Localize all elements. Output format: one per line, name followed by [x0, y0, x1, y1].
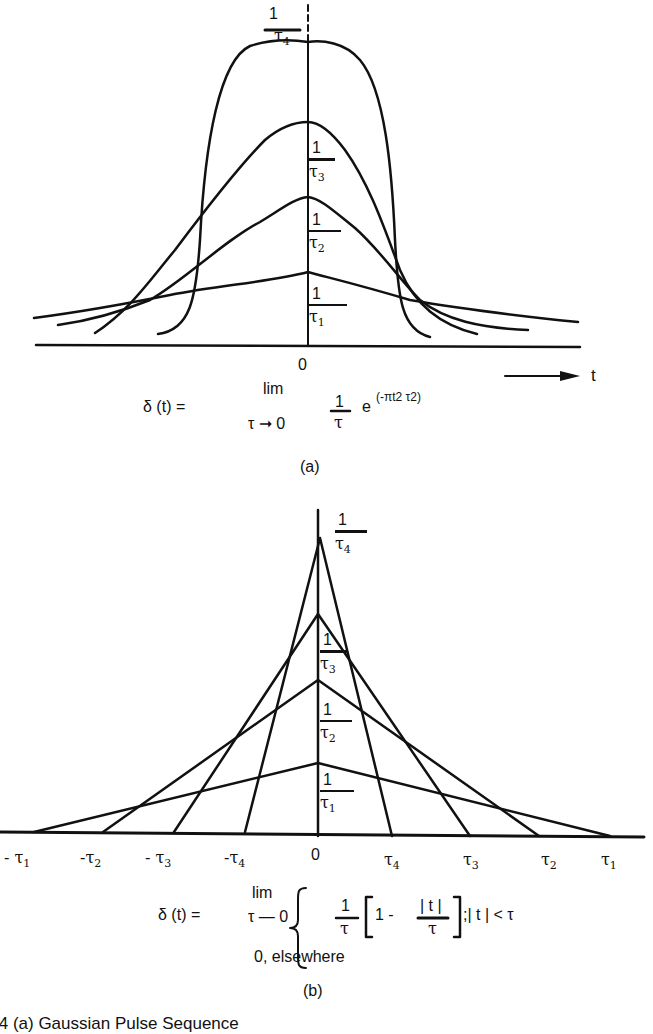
numerator: 1	[320, 632, 332, 648]
subscript: 4	[344, 543, 351, 556]
t-axis-label: t	[591, 366, 596, 386]
figure-caption: .4 (a) Gaussian Pulse Sequence	[0, 1014, 239, 1034]
panel-label-b: (b)	[303, 982, 323, 1000]
numerator: 1	[320, 772, 332, 788]
tick-tau1: τ1	[601, 850, 617, 872]
subscript: 3	[318, 171, 325, 184]
t-axis-b	[0, 832, 644, 837]
fraction-bar	[320, 790, 354, 792]
condition: ;| t | < τ	[463, 906, 514, 924]
gaussian-panel	[34, 5, 580, 376]
denominator: τ	[335, 534, 344, 553]
fraction-numerator: 1	[335, 393, 344, 411]
tick-neg-tau3: - τ3	[145, 848, 171, 870]
fraction-bar	[320, 720, 352, 722]
limit-subscript: τ ➞ 0	[248, 414, 285, 433]
denominator: τ	[309, 162, 318, 181]
left-bracket	[366, 897, 372, 937]
fraction-numerator: 1	[341, 897, 350, 915]
fraction-bar	[320, 650, 348, 653]
peak-label-tau1-a: 1 τ1	[309, 286, 347, 331]
panel-label-a: (a)	[300, 458, 320, 476]
tick-neg-tau2: -τ2	[80, 848, 101, 870]
tick-tau3: τ3	[463, 850, 479, 872]
right-bracket	[454, 897, 460, 937]
numerator: 1	[309, 212, 321, 228]
exponent: (-πt2 τ2)	[376, 390, 421, 404]
denominator: τ	[274, 26, 283, 45]
inner-denominator: τ	[428, 919, 437, 938]
numerator: 1	[266, 6, 278, 22]
peak-label-tau4-a: 1 τ4	[266, 6, 290, 50]
fraction-denominator: τ	[340, 919, 349, 938]
gaussian-curve-tau2	[58, 197, 528, 330]
peak-label-tau3-b: 1 τ3	[320, 632, 348, 678]
denominator: τ	[320, 723, 329, 742]
origin-label-a: 0	[298, 356, 307, 374]
numerator: 1	[309, 286, 321, 302]
equation-lhs: δ (t) =	[143, 398, 185, 416]
t-axis	[36, 345, 580, 347]
peak-label-tau1-b: 1 τ1	[320, 772, 354, 817]
limit-operator: lim	[263, 380, 283, 398]
equation-lhs: δ (t) =	[158, 906, 200, 924]
fraction-bar	[309, 158, 335, 161]
subscript: 3	[329, 663, 336, 676]
denominator: τ	[309, 307, 318, 326]
fraction-bar	[335, 530, 367, 533]
limit-operator: lim	[252, 884, 272, 902]
denominator: τ	[309, 233, 318, 252]
gaussian-curve-tau1	[34, 272, 578, 322]
denominator: τ	[320, 654, 329, 673]
subscript: 4	[283, 35, 290, 48]
one-minus: 1 -	[375, 906, 394, 924]
subscript: 1	[318, 316, 325, 329]
tick-tau2: τ2	[541, 850, 557, 872]
subscript: 1	[329, 802, 336, 815]
subscript: 2	[329, 732, 336, 745]
exponential-base: e	[362, 398, 371, 416]
fraction-denominator: τ	[334, 413, 343, 432]
numerator: 1	[335, 512, 347, 528]
tick-tau4: τ4	[384, 850, 400, 872]
numerator: 1	[320, 702, 332, 718]
peak-label-tau4-b: 1 τ4	[335, 512, 367, 558]
gaussian-curve-tau4	[158, 40, 430, 337]
peak-label-tau2-b: 1 τ2	[320, 702, 352, 747]
numerator: 1	[309, 140, 321, 156]
inner-numerator: | t |	[420, 897, 442, 915]
tick-neg-tau4: -τ4	[224, 848, 245, 870]
limit-subscript: τ — 0	[248, 908, 288, 926]
fraction-bar	[309, 304, 347, 306]
tick-neg-tau1: - τ1	[4, 848, 30, 870]
fraction-bar	[309, 230, 341, 232]
denominator: τ	[320, 793, 329, 812]
tick-zero: 0	[311, 846, 320, 864]
peak-label-tau3-a: 1 τ3	[309, 140, 335, 186]
otherwise-case: 0, elsewhere	[254, 948, 345, 966]
peak-label-tau2-a: 1 τ2	[309, 212, 341, 257]
subscript: 2	[318, 242, 325, 255]
